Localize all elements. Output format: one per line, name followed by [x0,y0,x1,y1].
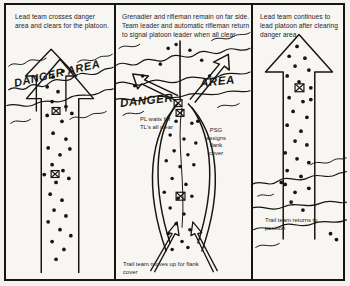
panel-1-caption: Lead team crosses danger area and clears… [15,12,110,30]
panel-2-caption: Grenadier and rifleman remain on far sid… [122,12,250,40]
panel-2-artwork [114,5,251,279]
soldier-dots-3 [279,45,338,242]
danger-area-label-2-right: AREA [199,73,235,89]
figure-root: Lead team crosses danger area and clears… [0,0,350,286]
note-platoon-leader-waits: PL waits for TL's all clear [140,116,192,131]
leader-markers-2 [174,100,185,201]
leader-markers-3 [295,84,304,92]
panel-divider-1 [114,5,116,279]
panel-1-artwork [6,5,114,279]
danger-area-terrain-3 [252,158,347,248]
danger-area-label-1: DANGER AREA [13,57,102,89]
soldier-dots-1 [42,69,73,261]
panel-teams-signal-all-clear: Grenadier and rifleman remain on far sid… [114,5,251,279]
soldier-dots-2 [133,43,211,252]
note-psg-assigns-flank-cover: PSG assigns flank cover [202,127,230,157]
panel-lead-team-continues: Lead team continues to lead platoon afte… [251,5,347,279]
note-trail-team-returns: Trail team returns to position [265,217,335,232]
danger-area-label-2-left: DANGER [119,91,173,109]
panel-3-caption: Lead team continues to lead platoon afte… [260,12,344,40]
note-trail-team-moves-up: Trail team moves up for flank cover [123,261,213,276]
leader-markers-1 [51,108,60,178]
panel-3-artwork [251,5,347,279]
figure-frame: Lead team crosses danger area and clears… [4,3,345,281]
panel-divider-2 [251,5,253,279]
panel-lead-team-crosses: Lead team crosses danger area and clears… [6,5,114,279]
